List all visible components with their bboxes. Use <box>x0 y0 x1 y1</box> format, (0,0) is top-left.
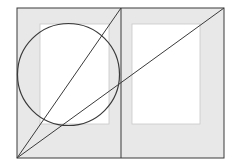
right-page-text-block <box>132 24 200 124</box>
left-page-text-block <box>40 24 109 124</box>
page-layout-diagram <box>0 0 236 167</box>
